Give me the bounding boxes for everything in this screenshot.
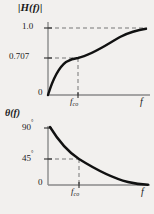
phase-ytick-label-zero: 0 xyxy=(38,178,43,187)
phase-ytick-label-45: 45° xyxy=(22,152,33,163)
magnitude-ytick-label-zero: 0 xyxy=(38,88,43,97)
magnitude-curve xyxy=(48,29,146,95)
phase-axis-title: θ(f) xyxy=(5,108,20,118)
phase-ytick-90-value: 90 xyxy=(22,122,31,132)
magnitude-axis-title: |H(f)| xyxy=(18,2,42,13)
phase-panel xyxy=(44,126,150,188)
magnitude-xtick-label-fco: fco xyxy=(70,97,78,106)
phase-ytick-45-value: 45 xyxy=(22,153,31,163)
phase-curve xyxy=(50,127,148,185)
magnitude-xtick-sub: co xyxy=(73,101,79,107)
phase-ytick-label-90: 90° xyxy=(22,121,33,132)
magnitude-x-axis-title: f xyxy=(140,97,143,107)
magnitude-ytick-label-unity: 1.0 xyxy=(22,22,33,31)
phase-x-axis-title: f xyxy=(141,187,144,197)
filter-response-figure xyxy=(0,0,154,214)
phase-xtick-label-fco: fco xyxy=(71,187,79,196)
magnitude-ytick-label-0707: 0.707 xyxy=(9,52,29,61)
magnitude-panel xyxy=(44,22,150,98)
phase-xtick-sub: co xyxy=(74,191,80,197)
